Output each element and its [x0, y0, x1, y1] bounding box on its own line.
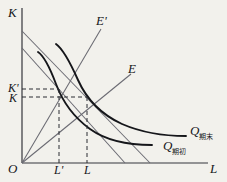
expansion-path-old-label: E	[128, 62, 136, 75]
isoquant-initial-label-sub: 期初	[172, 148, 186, 156]
isoquant-end-label-sub: 期末	[199, 133, 213, 141]
isocost-line-inner	[22, 48, 125, 163]
economics-isoquant-figure: K L O E' E K' K L' L Q期末 Q期初	[0, 0, 227, 182]
capital-old-label: K	[9, 92, 17, 104]
expansion-paths-group	[22, 29, 131, 163]
y-axis-label: K	[8, 6, 17, 19]
diagram-canvas	[0, 0, 227, 182]
isoquants-group	[38, 44, 186, 145]
guide-lines-group	[22, 89, 87, 163]
isoquant-initial-label: Q期初	[163, 139, 186, 156]
isoquant-end-label-main: Q	[190, 123, 199, 138]
x-axis-label: L	[210, 162, 217, 175]
labor-new-label: L'	[54, 164, 63, 176]
origin-label: O	[8, 162, 17, 175]
isoquant-end-curve	[56, 44, 186, 136]
expansion-path-new-label: E'	[96, 14, 107, 27]
isoquant-initial-label-main: Q	[163, 138, 172, 153]
isoquant-end-label: Q期末	[190, 124, 213, 141]
labor-old-label: L	[84, 164, 91, 176]
